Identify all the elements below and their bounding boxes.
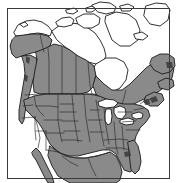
accent-gulf-coast bbox=[124, 151, 131, 157]
north-america-range-map bbox=[0, 0, 176, 183]
accent-maine bbox=[144, 99, 150, 105]
lake-michigan bbox=[105, 109, 112, 125]
range-map-figure: North America distribution map bbox=[0, 0, 176, 183]
